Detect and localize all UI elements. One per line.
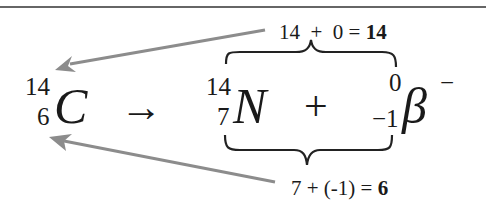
atomic-sum-result: 6 xyxy=(378,176,389,200)
beta-symbol: β xyxy=(402,81,427,131)
beta-charge: − xyxy=(440,70,454,95)
carbon-mass-number: 14 xyxy=(25,74,50,99)
nitrogen-atomic-number: 7 xyxy=(217,104,230,129)
beta-decay-diagram: 14 6 C → 14 7 N + 0 −1 β − 14 + 0 = 14 7… xyxy=(0,0,486,211)
bottom-brace-icon xyxy=(225,135,392,165)
mass-number-arrow-icon xyxy=(55,30,265,72)
mass-sum-expression: 14 + 0 = xyxy=(279,20,366,44)
reaction-arrow-icon: → xyxy=(120,86,162,128)
plus-sign: + xyxy=(304,85,328,127)
beta-mass-number: 0 xyxy=(389,70,402,95)
atomic-sum-expression: 7 + (-1) = xyxy=(291,176,378,200)
nitrogen-symbol: N xyxy=(233,81,266,131)
mass-sum-annotation: 14 + 0 = 14 xyxy=(279,22,387,43)
nitrogen-mass-number: 14 xyxy=(206,74,231,99)
atomic-sum-annotation: 7 + (-1) = 6 xyxy=(291,178,388,199)
top-brace-icon xyxy=(226,40,396,67)
atomic-number-arrow-icon xyxy=(49,134,275,182)
beta-atomic-number: −1 xyxy=(372,106,399,131)
mass-sum-result: 14 xyxy=(366,20,387,44)
carbon-atomic-number: 6 xyxy=(37,104,50,129)
carbon-symbol: C xyxy=(54,81,87,131)
